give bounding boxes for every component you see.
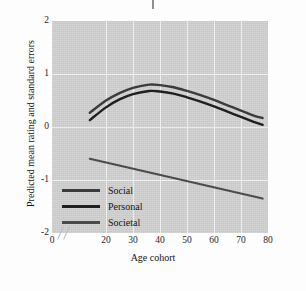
legend-swatch-icon — [62, 221, 100, 224]
legend-swatch-icon — [62, 205, 100, 208]
x-axis-tick-label: 50 — [175, 236, 199, 246]
legend-item: Societal — [62, 215, 182, 231]
legend-label: Societal — [108, 215, 140, 230]
x-axis-tick-label: 40 — [148, 236, 172, 246]
x-axis-tick-label: 80 — [256, 236, 280, 246]
x-axis-tick-label: 20 — [94, 236, 118, 246]
legend-swatch-icon — [62, 189, 100, 192]
legend-item: Social — [62, 183, 182, 199]
legend-item: Personal — [62, 199, 182, 215]
legend: SocialPersonalSocietal — [62, 183, 182, 231]
x-axis-tick-label: 30 — [121, 236, 145, 246]
x-axis-tick-label: 70 — [229, 236, 253, 246]
figure: 210-1-2 Predicted mean rating and standa… — [0, 0, 306, 291]
x-axis-tick-label: 0 — [40, 236, 64, 246]
series-layer — [0, 0, 306, 291]
legend-label: Personal — [108, 199, 142, 214]
x-axis-tick-label: 60 — [202, 236, 226, 246]
legend-label: Social — [108, 183, 133, 198]
